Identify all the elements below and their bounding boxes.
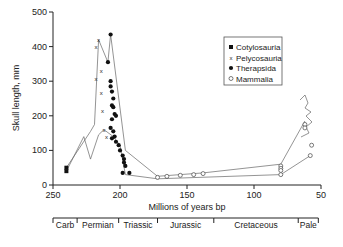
x-tick-label: 250 [45, 190, 60, 200]
legend: CotylosauriaxPelycosauriaTherapsidaMamma… [224, 37, 282, 85]
svg-text:x: x [102, 127, 105, 133]
series-therapsida [106, 32, 132, 175]
legend-label: Therapsida [236, 64, 277, 73]
svg-text:x: x [94, 44, 97, 50]
skull-length-chart: 250200150100500100200300400500 xxxxxxxx … [0, 0, 343, 247]
y-tick-label: 200 [32, 111, 47, 121]
period-label: Cretaceous [234, 220, 277, 230]
y-tick-label: 300 [32, 76, 47, 86]
period-label: Pale [300, 220, 317, 230]
x-tick-label: 150 [179, 190, 194, 200]
y-axis-label: Skull length, mm [11, 65, 21, 132]
period-label: Jurassic [170, 220, 202, 230]
period-label: Triassic [124, 220, 154, 230]
legend-item: Therapsida [229, 64, 277, 73]
y-tick-label: 100 [32, 145, 47, 155]
x-tick-label: 200 [112, 190, 127, 200]
geologic-periods-bar: CarbPermianTriassicJurassicCretaceousPal… [53, 218, 318, 230]
svg-text:x: x [230, 55, 233, 61]
svg-text:x: x [100, 90, 103, 96]
y-tick-label: 400 [32, 42, 47, 52]
period-label: Carb [56, 220, 75, 230]
x-tick-label: 50 [316, 190, 326, 200]
y-tick-label: 500 [32, 7, 47, 17]
legend-label: Mammalia [236, 75, 273, 84]
x-axis-label: Millions of years bp [148, 202, 225, 212]
legend-item: Cotylosauria [229, 43, 281, 52]
legend-label: Pelycosauria [236, 54, 282, 63]
series-cotylosauria [64, 166, 68, 173]
series-mammalia [156, 122, 314, 179]
svg-text:x: x [97, 37, 100, 43]
y-tick-label: 0 [42, 180, 47, 190]
x-tick-label: 100 [246, 190, 261, 200]
legend-label: Cotylosauria [236, 43, 281, 52]
svg-text:x: x [94, 76, 97, 82]
legend-item: xPelycosauria [230, 54, 283, 63]
legend-item: Mammalia [229, 75, 273, 84]
svg-text:x: x [105, 134, 108, 140]
svg-text:x: x [101, 108, 104, 114]
period-label: Permian [82, 220, 114, 230]
svg-text:x: x [100, 68, 103, 74]
